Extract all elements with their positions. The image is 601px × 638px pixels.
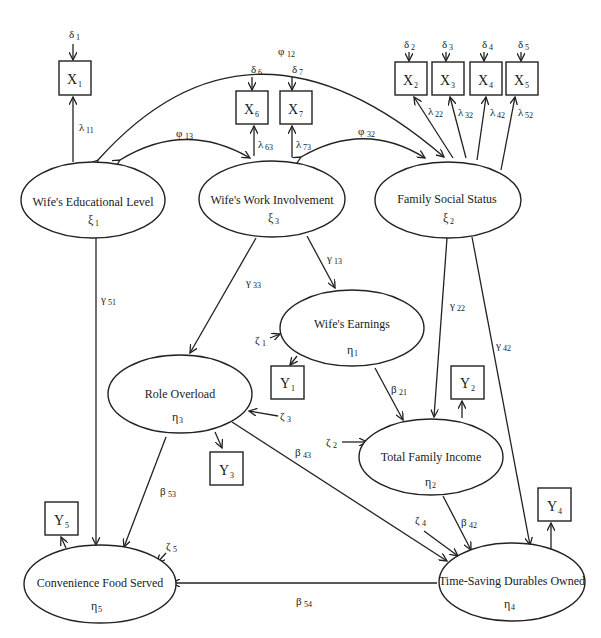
svg-text:42: 42	[503, 344, 511, 353]
svg-text:52: 52	[525, 111, 533, 120]
svg-text:43: 43	[303, 451, 311, 460]
svg-text:1: 1	[95, 219, 99, 228]
svg-text:3: 3	[451, 81, 455, 90]
latent-role-overload: Role Overload η 3	[108, 355, 252, 433]
svg-text:λ: λ	[490, 106, 496, 118]
svg-text:1: 1	[291, 384, 295, 393]
svg-text:δ: δ	[69, 28, 74, 40]
svg-text:ζ: ζ	[255, 334, 260, 347]
svg-text:2: 2	[414, 81, 418, 90]
svg-text:γ: γ	[326, 252, 332, 264]
svg-text:3: 3	[179, 416, 183, 425]
path-gamma13: γ 13	[307, 236, 342, 288]
indicator-y4: Y 4	[538, 488, 571, 549]
svg-text:λ: λ	[79, 121, 85, 133]
svg-text:δ: δ	[442, 38, 447, 50]
svg-text:Y: Y	[280, 376, 290, 391]
svg-text:5: 5	[98, 605, 102, 614]
svg-text:γ: γ	[100, 293, 106, 305]
svg-text:1: 1	[76, 33, 80, 42]
svg-text:54: 54	[304, 600, 312, 609]
svg-text:δ: δ	[482, 38, 487, 50]
svg-text:X: X	[244, 102, 254, 117]
svg-text:X: X	[514, 73, 524, 88]
svg-text:ζ: ζ	[280, 410, 285, 423]
latent-time-saving-durables-owned: Time-Saving Durables Owned η 4	[439, 543, 585, 621]
latent-wifes-earnings: Wife's Earnings η 1	[280, 290, 424, 366]
indicator-y2: Y 2	[451, 366, 484, 418]
svg-text:63: 63	[265, 143, 273, 152]
svg-text:λ: λ	[296, 138, 302, 150]
indicator-y3: Y 3	[210, 432, 243, 485]
svg-text:6: 6	[255, 110, 259, 119]
svg-text:φ: φ	[278, 45, 284, 57]
svg-text:5: 5	[173, 545, 177, 554]
svg-text:42: 42	[497, 111, 505, 120]
svg-text:2: 2	[471, 384, 475, 393]
svg-text:η: η	[425, 475, 431, 489]
svg-text:13: 13	[334, 257, 342, 266]
svg-text:η: η	[347, 343, 353, 357]
svg-text:32: 32	[367, 130, 375, 139]
svg-text:22: 22	[457, 304, 465, 313]
svg-text:η: η	[504, 597, 510, 611]
indicator-x5: δ 5 X 5 λ 52	[501, 38, 538, 170]
svg-text:η: η	[172, 410, 178, 424]
svg-text:1: 1	[354, 349, 358, 358]
disturbance-zeta3: ζ 3	[249, 410, 291, 424]
svg-text:Y: Y	[54, 513, 64, 528]
path-gamma33: γ 33	[190, 238, 261, 353]
svg-text:γ: γ	[245, 276, 251, 288]
svg-text:6: 6	[258, 68, 262, 77]
svg-text:δ: δ	[404, 38, 409, 50]
svg-text:53: 53	[168, 490, 176, 499]
svg-text:X: X	[478, 73, 488, 88]
svg-text:5: 5	[525, 43, 529, 52]
svg-text:X: X	[440, 73, 450, 88]
svg-text:4: 4	[489, 81, 493, 90]
svg-text:X: X	[403, 73, 413, 88]
latent-wifes-work-involvement: Wife's Work Involvement ξ 3	[199, 161, 345, 237]
latent-total-family-income: Total Family Income η 2	[359, 419, 503, 495]
svg-text:33: 33	[253, 281, 261, 290]
svg-text:2: 2	[411, 43, 415, 52]
svg-text:Convenience Food Served: Convenience Food Served	[37, 576, 164, 590]
svg-text:ξ: ξ	[88, 213, 94, 227]
svg-text:φ: φ	[358, 125, 364, 137]
path-beta21: β 21	[375, 368, 407, 420]
disturbance-zeta4: ζ 4	[415, 514, 458, 556]
svg-text:Wife's Earnings: Wife's Earnings	[314, 317, 390, 331]
svg-text:β: β	[295, 446, 301, 458]
path-beta54: β 54	[172, 583, 437, 609]
svg-text:γ: γ	[449, 299, 455, 311]
svg-text:5: 5	[65, 521, 69, 530]
svg-text:X: X	[288, 102, 298, 117]
svg-text:Y: Y	[547, 499, 557, 514]
covariance-phi13: φ 13	[120, 127, 250, 160]
svg-text:11: 11	[86, 126, 94, 135]
svg-text:4: 4	[489, 43, 493, 52]
path-beta53: β 53	[124, 437, 176, 547]
indicator-y5: Y 5	[45, 502, 78, 548]
svg-text:Total Family Income: Total Family Income	[381, 450, 481, 464]
svg-text:22: 22	[435, 110, 443, 119]
svg-text:73: 73	[303, 143, 311, 152]
svg-text:β: β	[391, 383, 397, 395]
latent-family-social-status: Family Social Status ξ 2	[375, 162, 521, 238]
covariance-phi32: φ 32	[301, 125, 425, 158]
svg-text:4: 4	[558, 507, 562, 516]
svg-text:2: 2	[333, 441, 337, 450]
svg-text:Y: Y	[219, 463, 229, 478]
indicator-x6: δ 6 X 6 λ 63	[236, 63, 273, 156]
svg-text:ζ: ζ	[415, 514, 420, 527]
svg-text:β: β	[461, 516, 467, 528]
svg-text:λ: λ	[458, 106, 464, 118]
svg-text:2: 2	[432, 481, 436, 490]
svg-text:η: η	[91, 599, 97, 613]
svg-text:32: 32	[465, 111, 473, 120]
svg-text:Time-Saving Durables Owned: Time-Saving Durables Owned	[439, 574, 585, 588]
latent-convenience-food-served: Convenience Food Served η 5	[24, 545, 176, 623]
svg-text:λ: λ	[518, 106, 524, 118]
svg-text:γ: γ	[495, 339, 501, 351]
svg-text:Role Overload: Role Overload	[145, 387, 215, 401]
